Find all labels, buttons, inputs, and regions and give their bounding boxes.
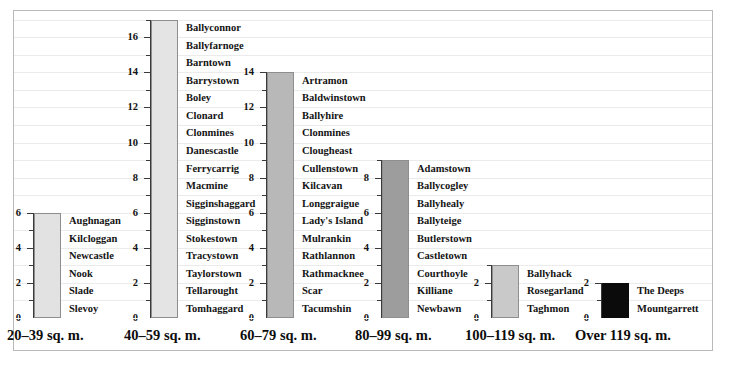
townland-name: Mountgarrett: [637, 300, 699, 318]
chart-screenshot: 0246AughnaganKilclogganNewcastleNookSlad…: [0, 0, 729, 373]
townland-name-list: The DeepsMountgarrett: [637, 283, 699, 318]
bar[interactable]: [602, 283, 629, 318]
category-label: Over 119 sq. m.: [575, 327, 671, 344]
y-tick-label: 2: [567, 278, 589, 289]
y-tick-minor: [597, 300, 601, 301]
y-tick-major: [595, 283, 601, 284]
x-axis-line: [14, 318, 712, 319]
townland-name: The Deeps: [637, 283, 699, 301]
